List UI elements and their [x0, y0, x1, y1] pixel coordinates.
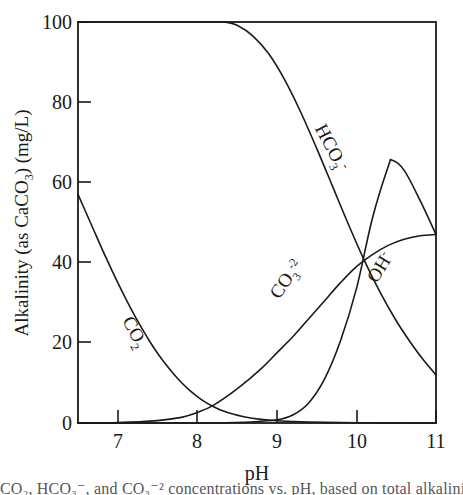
svg-text:Alkalinity (as CaCO3) (mg/L): Alkalinity (as CaCO3) (mg/L)	[11, 109, 36, 336]
curve-label-co2-group: CO2	[115, 313, 152, 353]
y-axis-title-suffix: ) (mg/L)	[11, 109, 33, 174]
curve-labels-group: CO2 HCO3- CO3-2 OH-	[115, 120, 397, 353]
y-tick-label-0: 0	[62, 412, 72, 434]
x-tick-label-7: 7	[113, 430, 123, 452]
x-tick-label-10: 10	[347, 430, 367, 452]
y-axis-ticks	[78, 22, 91, 423]
y-axis-tick-labels: 100 80 60 40 20 0	[42, 11, 72, 434]
y-tick-label-100: 100	[42, 11, 72, 33]
figure-caption: CO₂, HCO₃⁻, and CO₃⁻² concentrations vs.…	[0, 479, 463, 495]
curve-label-hco3-group: HCO3-	[307, 120, 353, 176]
x-tick-label-8: 8	[192, 430, 202, 452]
curve-label-co2: CO2	[115, 313, 152, 353]
curve-co2	[78, 194, 436, 423]
y-tick-label-60: 60	[52, 171, 72, 193]
y-tick-label-80: 80	[52, 91, 72, 113]
curve-label-hco3: HCO3-	[307, 120, 353, 176]
x-tick-label-9: 9	[272, 430, 282, 452]
y-axis-title: Alkalinity (as CaCO3) (mg/L)	[11, 109, 36, 336]
curve-label-co3-group: CO3-2	[265, 255, 310, 304]
curve-label-oh-group: OH-	[362, 248, 397, 286]
curve-label-co3: CO3-2	[265, 255, 310, 304]
y-tick-label-40: 40	[52, 251, 72, 273]
plot-frame	[78, 22, 436, 423]
curve-label-oh: OH-	[362, 248, 397, 286]
curve-oh	[78, 159, 436, 423]
y-tick-label-20: 20	[52, 331, 72, 353]
x-tick-label-11: 11	[426, 430, 445, 452]
y-axis-title-prefix: Alkalinity (as CaCO	[11, 180, 33, 336]
x-axis-tick-labels: 7 8 9 10 11	[113, 430, 446, 452]
curves-group	[78, 22, 436, 423]
